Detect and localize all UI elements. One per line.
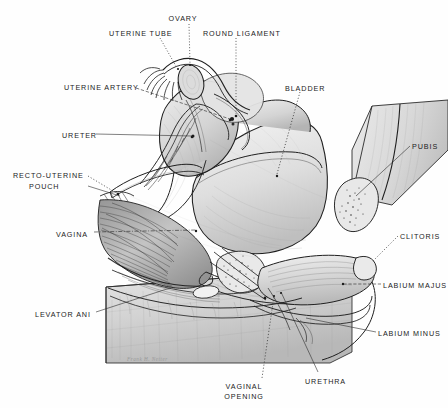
label-urethra: URETHRA bbox=[305, 377, 346, 387]
label-pubis: PUBIS bbox=[412, 142, 438, 152]
label-levator-ani: LEVATOR ANI bbox=[35, 310, 91, 320]
label-ureter: URETER bbox=[62, 131, 97, 141]
label-labium-minus: LABIUM MINUS bbox=[378, 329, 441, 339]
label-vaginal-opening-2: OPENING bbox=[222, 392, 266, 402]
label-round-ligament: ROUND LIGAMENT bbox=[203, 29, 281, 39]
illustration-canvas: OVARYUTERINE TUBEROUND LIGAMENTUTERINE A… bbox=[0, 0, 448, 408]
label-recto-uterine-pouch-2: POUCH bbox=[29, 182, 59, 192]
leader-uterine-tube bbox=[160, 38, 177, 68]
label-clitoris: CLITORIS bbox=[400, 232, 440, 242]
label-uterine-tube: UTERINE TUBE bbox=[109, 29, 172, 39]
label-ovary: OVARY bbox=[160, 14, 206, 24]
anatomical-drawing bbox=[0, 0, 448, 408]
leader-clitoris bbox=[372, 236, 398, 262]
label-labium-majus: LABIUM MAJUS bbox=[383, 281, 447, 291]
label-vaginal-opening-1: VAGINAL bbox=[222, 382, 266, 392]
label-uterine-artery: UTERINE ARTERY bbox=[64, 83, 139, 93]
label-recto-uterine-pouch-1: RECTO-UTERINE bbox=[13, 171, 84, 181]
artist-signature: Frank H. Netter bbox=[127, 356, 168, 362]
label-bladder: BLADDER bbox=[285, 84, 325, 94]
label-vagina: VAGINA bbox=[56, 230, 88, 240]
